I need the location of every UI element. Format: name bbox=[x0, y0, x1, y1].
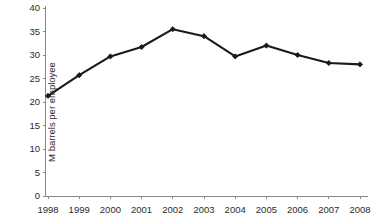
data-point-marker bbox=[326, 60, 331, 65]
plot-area bbox=[0, 0, 372, 224]
line-chart: M barrels per employee 0510152025303540 … bbox=[0, 0, 372, 224]
data-point-markers bbox=[45, 27, 362, 99]
data-point-marker bbox=[295, 52, 300, 57]
data-point-marker bbox=[357, 62, 362, 67]
axes bbox=[46, 6, 369, 196]
data-point-marker bbox=[264, 43, 269, 48]
